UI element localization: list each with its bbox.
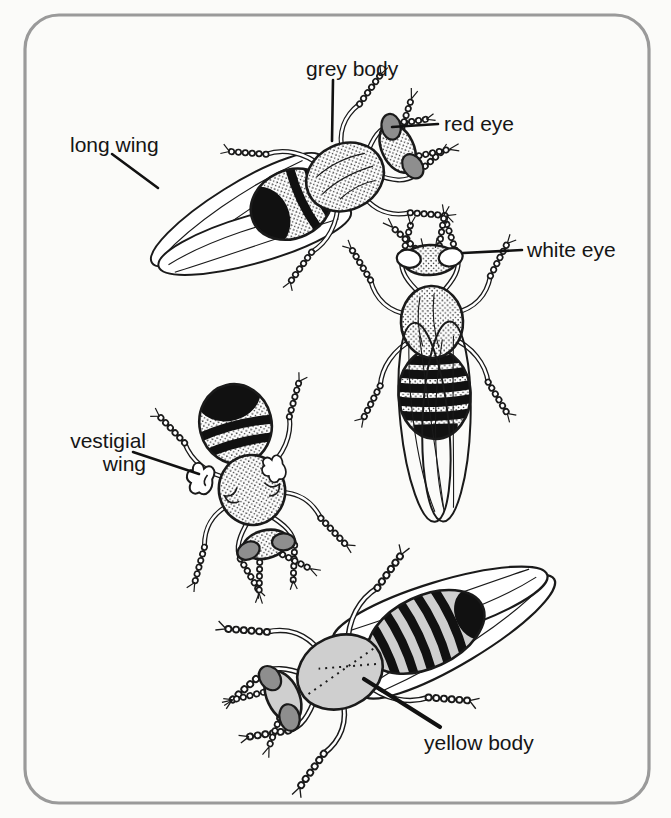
label-white-eye: white eye [526, 238, 616, 261]
fly-diagram: long wing grey body red eye white eye ve… [0, 0, 671, 818]
label-grey-body: grey body [306, 57, 399, 80]
label-vestigial-wing-line1: vestigial [70, 429, 146, 452]
leader-grey-body [332, 80, 333, 141]
diagram-page: long wing grey body red eye white eye ve… [0, 0, 671, 818]
label-yellow-body: yellow body [424, 731, 534, 754]
label-vestigial-wing-line2: wing [102, 452, 146, 475]
label-red-eye: red eye [444, 112, 514, 135]
label-long-wing: long wing [70, 133, 159, 156]
